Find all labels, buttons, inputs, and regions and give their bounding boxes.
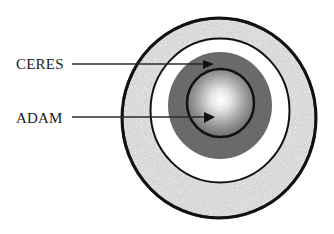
concentric-diagram: CERES ADAM	[0, 0, 334, 234]
label-ceres: CERES	[16, 57, 64, 72]
label-adam: ADAM	[16, 111, 63, 126]
inner-sphere	[187, 69, 254, 137]
